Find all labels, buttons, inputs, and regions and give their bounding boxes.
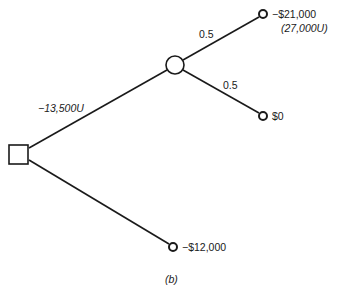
probability-up-label: 0.5 [199, 29, 214, 40]
decision-node [9, 145, 28, 164]
probability-down-label: 0.5 [223, 80, 238, 91]
branch-line-chance-down [183, 70, 259, 113]
branch-line-lower-decision [29, 160, 169, 244]
branch-line-chance-up [183, 17, 259, 60]
outcome-up-label: −$21,000 [272, 9, 316, 20]
figure-caption: (b) [165, 274, 178, 285]
outcome-mid-label: $0 [272, 111, 284, 122]
terminal-node-mid [259, 112, 267, 120]
upper-decision-utility-label: −13,500U [38, 103, 84, 114]
terminal-node-up [259, 10, 267, 18]
outcome-low-label: −$12,000 [182, 242, 226, 253]
terminal-node-low [169, 243, 177, 251]
utility-up-label: (27,000U) [281, 23, 328, 34]
decision-tree-diagram [0, 0, 339, 293]
chance-node [166, 56, 184, 74]
